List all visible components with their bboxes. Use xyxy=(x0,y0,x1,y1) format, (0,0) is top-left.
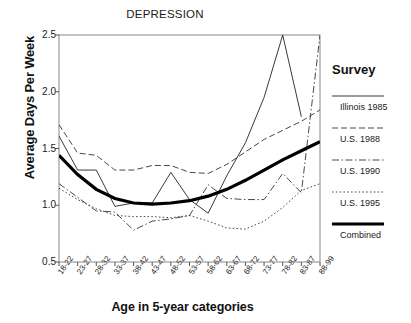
legend-entries: Illinois 1985U.S. 1988U.S. 1990U.S. 1995… xyxy=(332,91,411,240)
legend-entry[interactable]: Combined xyxy=(332,219,411,240)
legend: Survey Illinois 1985U.S. 1988U.S. 1990U.… xyxy=(332,62,411,251)
legend-line-swatch xyxy=(332,187,384,197)
depression-line-chart: DEPRESSION Average Days Per Week Age in … xyxy=(0,0,411,323)
legend-entry[interactable]: U.S. 1990 xyxy=(332,155,411,176)
legend-entry[interactable]: Illinois 1985 xyxy=(332,91,411,112)
legend-entry[interactable]: U.S. 1995 xyxy=(332,187,411,208)
legend-entry-label: Combined xyxy=(340,230,411,240)
series-line xyxy=(59,35,301,213)
series-line xyxy=(59,110,320,174)
legend-entry-label: U.S. 1995 xyxy=(340,198,411,208)
legend-title: Survey xyxy=(332,62,411,77)
legend-entry-label: Illinois 1985 xyxy=(340,102,411,112)
legend-entry[interactable]: U.S. 1988 xyxy=(332,123,411,144)
legend-line-swatch xyxy=(332,91,384,101)
legend-line-swatch xyxy=(332,155,384,165)
legend-entry-label: U.S. 1988 xyxy=(340,134,411,144)
legend-line-swatch xyxy=(332,123,384,133)
legend-entry-label: U.S. 1990 xyxy=(340,166,411,176)
legend-line-swatch xyxy=(332,219,384,229)
